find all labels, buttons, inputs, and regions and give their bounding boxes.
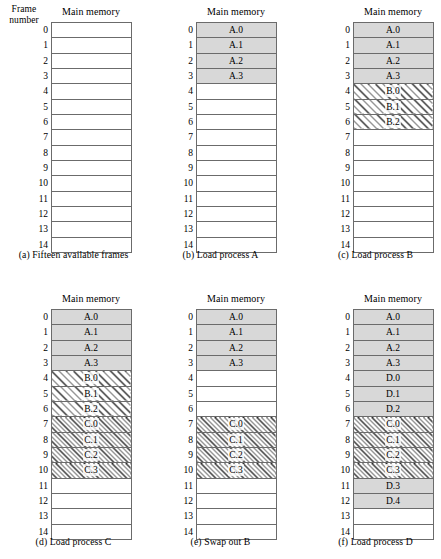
memory-frame-label: B.0 (385, 85, 400, 97)
memory-frame-label: A.2 (386, 55, 400, 67)
memory-frame-row: 9 (176, 160, 276, 175)
memory-frame-row: 10 (333, 176, 433, 191)
memory-table: 0A.01A.12A.23A.34567C.08C.19C.210C.31112… (176, 309, 277, 540)
memory-frame-label: C.1 (385, 434, 400, 446)
memory-frame-cell-occupied: D.4 (353, 493, 433, 508)
memory-frame-label: D.0 (386, 372, 400, 384)
memory-frame-cell-empty (51, 478, 131, 493)
memory-frame-label: A.0 (386, 24, 400, 36)
frame-number-label: 4 (31, 371, 51, 386)
memory-frame-row: 2A.2 (176, 340, 276, 355)
memory-frame-cell-empty (51, 99, 131, 114)
main-memory-title: Main memory (35, 6, 147, 17)
memory-frame-cell-empty (51, 23, 131, 38)
memory-frame-cell-occupied: B.0 (51, 371, 131, 386)
memory-frame-cell-occupied: C.3 (353, 463, 433, 478)
memory-frame-cell-empty (196, 160, 276, 175)
main-memory-title: Main memory (35, 293, 147, 304)
frame-number-label: 1 (31, 38, 51, 53)
memory-frame-row: 4 (176, 371, 276, 386)
memory-frame-cell-occupied: C.1 (353, 432, 433, 447)
memory-frame-cell-occupied: A.2 (196, 340, 276, 355)
memory-frame-row: 10 (176, 176, 276, 191)
memory-frame-label: C.0 (83, 418, 98, 430)
frame-number-label: 1 (31, 325, 51, 340)
frame-number-label: 10 (333, 176, 353, 191)
memory-frame-row: 7C.0 (176, 417, 276, 432)
memory-frame-cell-occupied: D.3 (353, 478, 433, 493)
memory-frame-row: 3A.3 (176, 355, 276, 370)
memory-frame-row: 1A.1 (333, 38, 433, 53)
memory-frame-row: 5B.1 (31, 386, 131, 401)
memory-frame-label: A.0 (84, 311, 98, 323)
memory-frame-cell-occupied: A.3 (196, 355, 276, 370)
memory-frame-row: 9 (31, 160, 131, 175)
frame-number-label: 4 (333, 371, 353, 386)
frame-number-label: 5 (31, 99, 51, 114)
memory-frame-cell-empty (51, 38, 131, 53)
memory-frame-row: 0A.0 (31, 310, 131, 325)
memory-frame-cell-empty (51, 509, 131, 524)
frame-number-label: 7 (333, 417, 353, 432)
memory-frame-cell-occupied: A.0 (196, 23, 276, 38)
memory-frame-label: B.2 (385, 116, 400, 128)
frame-number-label: 9 (31, 447, 51, 462)
memory-frame-cell-empty (51, 191, 131, 206)
frame-number-label: 10 (31, 176, 51, 191)
memory-frame-cell-occupied: A.2 (196, 53, 276, 68)
memory-frame-label: D.4 (386, 495, 400, 507)
memory-frame-row: 3A.3 (31, 355, 131, 370)
memory-frame-row: 13 (31, 222, 131, 237)
memory-frame-row: 11 (176, 191, 276, 206)
memory-frame-row: 8 (333, 145, 433, 160)
memory-frame-row: 7C.0 (333, 417, 433, 432)
memory-frame-row: 4 (176, 84, 276, 99)
frame-number-label: 3 (31, 68, 51, 83)
memory-frame-cell-occupied: B.1 (353, 99, 433, 114)
memory-frame-row: 8C.1 (176, 432, 276, 447)
frame-number-label: 11 (176, 191, 196, 206)
memory-frame-cell-occupied: A.3 (353, 68, 433, 83)
frame-number-label: 5 (176, 99, 196, 114)
memory-frame-row: 2A.2 (176, 53, 276, 68)
memory-frame-cell-empty (51, 53, 131, 68)
paging-allocation-figure: Frame number Main memory 012345678910111… (0, 0, 441, 559)
memory-table: 0A.01A.12A.23A.34B.05B.16B.27C.08C.19C.2… (31, 309, 132, 540)
main-memory-title: Main memory (337, 6, 441, 17)
frame-number-label: 6 (333, 114, 353, 129)
memory-frame-row: 0A.0 (333, 23, 433, 38)
memory-frame-row: 8 (31, 145, 131, 160)
memory-frame-row: 13 (31, 509, 131, 524)
memory-frame-cell-occupied: C.0 (196, 417, 276, 432)
memory-frame-cell-occupied: B.2 (51, 401, 131, 416)
memory-frame-cell-empty (196, 493, 276, 508)
memory-frame-row: 3A.3 (176, 68, 276, 83)
memory-frame-row: 0A.0 (176, 23, 276, 38)
memory-frame-cell-empty (353, 222, 433, 237)
frame-number-label: 8 (31, 432, 51, 447)
memory-frame-row: 6 (176, 401, 276, 416)
frame-number-label: 10 (176, 176, 196, 191)
memory-frame-row: 2A.2 (31, 340, 131, 355)
memory-frame-label: A.2 (84, 342, 98, 354)
memory-frame-label: C.1 (83, 434, 98, 446)
memory-frame-row: 9C.2 (333, 447, 433, 462)
memory-frame-row: 12D.4 (333, 493, 433, 508)
frame-number-label: 0 (176, 310, 196, 325)
memory-frame-row: 12 (176, 206, 276, 221)
memory-frame-row: 12 (333, 206, 433, 221)
main-memory-title: Main memory (180, 6, 292, 17)
memory-frame-row: 3A.3 (333, 355, 433, 370)
frame-number-label: 13 (31, 222, 51, 237)
frame-number-label: 0 (176, 23, 196, 38)
memory-frame-row: 10C.3 (31, 463, 131, 478)
memory-frame-row: 9C.2 (31, 447, 131, 462)
memory-frame-cell-occupied: C.2 (196, 447, 276, 462)
memory-frame-cell-empty (51, 206, 131, 221)
panel-caption: (f) Load process D (302, 536, 441, 547)
memory-frame-cell-empty (353, 160, 433, 175)
memory-frame-row: 6B.2 (333, 114, 433, 129)
memory-frame-row: 8 (176, 145, 276, 160)
memory-frame-cell-empty (353, 145, 433, 160)
memory-frame-row: 8C.1 (31, 432, 131, 447)
